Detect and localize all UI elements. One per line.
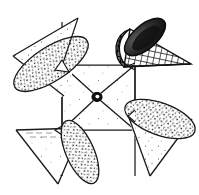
hub-inner-dot — [95, 95, 99, 99]
pinwheel-drawing: Pinwheel with four conical vanes Hand-dr… — [0, 0, 199, 195]
center-hub — [92, 93, 102, 102]
pinwheel-figure: Pinwheel with four conical vanes Hand-dr… — [0, 0, 199, 195]
